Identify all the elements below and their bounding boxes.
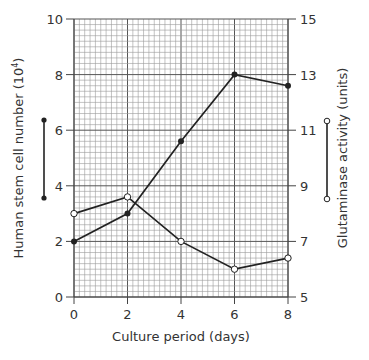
y-axis-label: Human stem cell number (104) [11, 58, 26, 259]
x-tick-label: 4 [177, 307, 185, 322]
x-tick-label: 0 [70, 307, 78, 322]
y-tick-label: 0 [55, 290, 63, 305]
data-point [125, 211, 131, 217]
data-point [178, 138, 184, 144]
x-tick-label: 2 [123, 307, 131, 322]
legend-filled-marker [41, 117, 46, 200]
x-tick-label: 6 [230, 307, 238, 322]
x-axis-label: Culture period (days) [112, 329, 250, 344]
x-tick-label: 8 [284, 307, 292, 322]
y2-tick-label: 13 [300, 68, 317, 83]
y-tick-label: 8 [55, 68, 63, 83]
y-tick-label: 10 [46, 12, 63, 27]
data-point [232, 72, 238, 78]
data-point [178, 238, 184, 244]
data-point [71, 238, 77, 244]
data-point [71, 210, 77, 216]
y2-tick-label: 11 [300, 123, 317, 138]
data-point [285, 83, 291, 89]
chart-grid [74, 19, 288, 297]
y-tick-label: 4 [55, 179, 63, 194]
data-point [124, 194, 130, 200]
legend-open-marker [324, 118, 330, 202]
y-tick-label: 6 [55, 123, 63, 138]
y2-axis-label: Glutaminase activity (units) [335, 68, 350, 249]
dual-axis-line-chart: 024681057911131502468 Culture period (da… [0, 0, 369, 360]
y2-tick-label: 7 [300, 234, 308, 249]
data-point [285, 255, 291, 261]
y2-tick-label: 15 [300, 12, 317, 27]
y2-tick-label: 9 [300, 179, 308, 194]
y-tick-label: 2 [55, 234, 63, 249]
y2-tick-label: 5 [300, 290, 308, 305]
data-point [231, 266, 237, 272]
